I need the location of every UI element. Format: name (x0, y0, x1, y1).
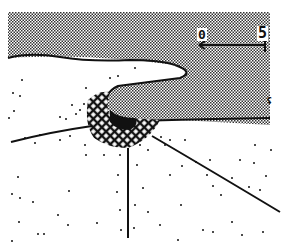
diagram-svg (0, 0, 286, 247)
upper-mass (8, 12, 270, 125)
scale-end-label: 5 (257, 26, 268, 41)
scale-start-label: 0 (197, 28, 207, 41)
radiating-lines (11, 126, 280, 238)
corner-mark: ʢ (267, 97, 272, 106)
diagram-canvas: 0 5 ʢ (0, 0, 286, 247)
